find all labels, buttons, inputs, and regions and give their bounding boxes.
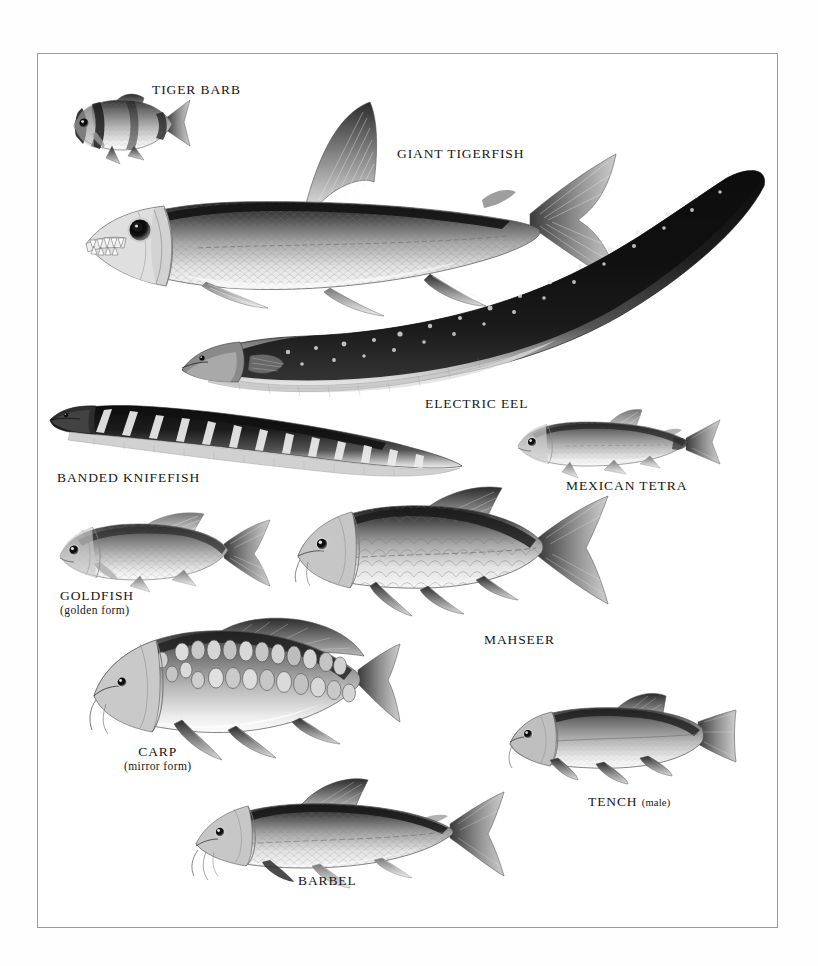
label-mahseer-text: MAHSEER	[484, 632, 555, 648]
label-tench-text: TENCH (male)	[588, 794, 670, 810]
reference-plate: TIGER BARB	[0, 0, 818, 966]
label-tench-qualifier: (male)	[642, 797, 671, 808]
figure-mexican-tetra	[508, 404, 728, 484]
label-giant-tigerfish-text: GIANT TIGERFISH	[397, 146, 524, 162]
label-giant-tigerfish: GIANT TIGERFISH	[397, 146, 524, 162]
electric-eel-illustration	[182, 171, 765, 397]
label-carp-text: CARP	[124, 744, 191, 760]
label-tench-name: TENCH	[588, 794, 638, 809]
banded-knifefish-illustration	[50, 406, 462, 477]
figure-mahseer	[288, 478, 628, 633]
carp-illustration	[90, 618, 400, 760]
label-carp-qualifier: (mirror form)	[124, 760, 191, 774]
label-carp: CARP (mirror form)	[124, 744, 191, 773]
barbel-illustration	[192, 779, 504, 888]
label-mahseer: MAHSEER	[484, 632, 555, 648]
goldfish-illustration	[60, 513, 270, 592]
tench-illustration	[509, 693, 736, 784]
figure-electric-eel	[168, 168, 778, 403]
mexican-tetra-illustration	[518, 410, 720, 478]
mahseer-illustration	[295, 487, 608, 616]
label-barbel: BARBEL	[298, 873, 357, 889]
label-barbel-text: BARBEL	[298, 873, 357, 889]
figure-goldfish	[48, 508, 273, 598]
label-banded-knifefish: BANDED KNIFEFISH	[57, 470, 200, 486]
label-banded-knifefish-text: BANDED KNIFEFISH	[57, 470, 200, 486]
label-goldfish-text: GOLDFISH	[60, 588, 134, 604]
figure-tench	[500, 686, 740, 796]
label-tench: TENCH (male)	[588, 794, 670, 810]
